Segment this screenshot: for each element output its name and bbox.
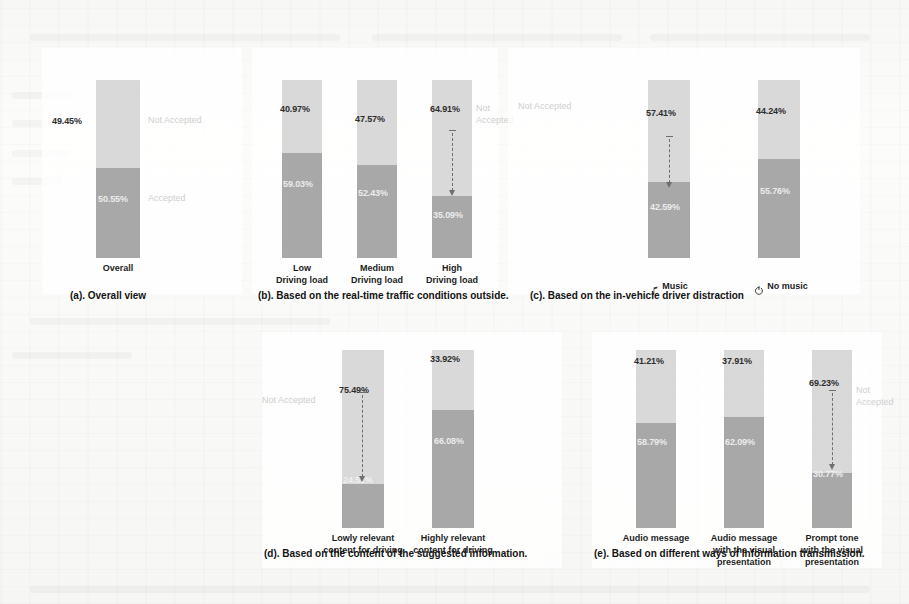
segment-accepted[interactable]	[342, 484, 384, 528]
value-label-accepted: 55.76%	[760, 186, 790, 196]
panel-d-content-relevance: Not Accepted 75.49% 24.51% Lowly relevan…	[262, 332, 562, 568]
value-label-not-accepted: 47.57%	[355, 114, 385, 124]
panel-c-plot: Not Accepted 57.41% 42.59% Music	[508, 48, 860, 294]
value-label-not-accepted: 57.41%	[646, 108, 676, 118]
segment-accepted[interactable]	[758, 159, 800, 258]
value-label-accepted: 52.43%	[358, 188, 388, 198]
value-label-accepted: 66.08%	[434, 436, 464, 446]
no-music-icon	[754, 274, 764, 299]
panel-e-plot: 41.21% 58.79% Audio message 37.91% 62.09…	[592, 332, 882, 568]
panel-e-caption: (e). Based on different ways of informat…	[594, 548, 865, 559]
down-arrow-annotation	[358, 392, 367, 482]
value-label-not-accepted: 64.91%	[430, 104, 460, 114]
panel-a-plot: 49.45% 50.55% Not Accepted Accepted Over…	[42, 48, 242, 294]
panel-b-driving-load: 40.97% 59.03% Low Driving load 47.57% 52…	[252, 48, 498, 294]
panel-c-caption: (c). Based on the in-vehicle driver dist…	[530, 290, 744, 301]
panel-d-caption: (d). Based on the content of the suggest…	[264, 548, 527, 559]
value-label-not-accepted: 69.23%	[809, 378, 839, 388]
down-arrow-annotation	[828, 390, 837, 470]
legend-not-accepted: Not Accepted	[518, 100, 572, 112]
value-label-accepted: 30.77%	[813, 469, 843, 479]
down-arrow-annotation	[448, 130, 457, 196]
segment-accepted[interactable]	[357, 165, 397, 258]
panel-e-transmission-mode: 41.21% 58.79% Audio message 37.91% 62.09…	[592, 332, 882, 568]
panel-a-overall-view: 49.45% 50.55% Not Accepted Accepted Over…	[42, 48, 242, 294]
segment-accepted[interactable]	[96, 168, 140, 258]
value-label-not-accepted: 44.24%	[756, 106, 786, 116]
segment-not-accepted[interactable]	[758, 80, 800, 159]
value-label-accepted: 35.09%	[433, 210, 463, 220]
panel-b-caption: (b). Based on the real-time traffic cond…	[258, 290, 509, 301]
panel-b-plot: 40.97% 59.03% Low Driving load 47.57% 52…	[252, 48, 498, 294]
panel-a-caption: (a). Overall view	[70, 290, 146, 301]
value-label-not-accepted: 49.45%	[52, 116, 82, 126]
x-tick-label-low: Low Driving load	[266, 262, 338, 286]
x-tick-label-high: High Driving load	[416, 262, 488, 286]
bar-medium-driving-load[interactable]	[357, 80, 397, 258]
segment-accepted[interactable]	[812, 473, 852, 528]
segment-not-accepted[interactable]	[96, 80, 140, 168]
x-tick-label-no-music-text: No music	[767, 281, 808, 291]
value-label-accepted: 59.03%	[283, 179, 313, 189]
legend-not-accepted: Not Accepted	[148, 114, 202, 126]
value-label-accepted: 62.09%	[725, 437, 755, 447]
legend-accepted: Accepted	[148, 192, 186, 204]
bar-overall[interactable]	[96, 80, 140, 258]
value-label-accepted: 50.55%	[98, 194, 128, 204]
value-label-accepted: 42.59%	[650, 202, 680, 212]
figure-stacked-bar-acceptance: 49.45% 50.55% Not Accepted Accepted Over…	[0, 0, 909, 604]
segment-not-accepted[interactable]	[282, 80, 322, 153]
x-tick-label-overall: Overall	[86, 262, 150, 274]
segment-accepted[interactable]	[648, 182, 690, 258]
segment-accepted[interactable]	[432, 196, 472, 258]
segment-accepted[interactable]	[432, 410, 474, 528]
x-tick-label-medium: Medium Driving load	[341, 262, 413, 286]
x-tick-label-audio-message: Audio message	[614, 532, 698, 544]
value-label-not-accepted: 40.97%	[280, 104, 310, 114]
segment-accepted[interactable]	[282, 153, 322, 258]
x-tick-label-no-music: No music	[736, 262, 826, 299]
panel-c-driver-distraction: Not Accepted 57.41% 42.59% Music	[508, 48, 860, 294]
value-label-not-accepted: 41.21%	[634, 356, 664, 366]
legend-not-accepted: Not Accepted	[262, 394, 316, 406]
down-arrow-annotation	[665, 136, 674, 188]
legend-not-accepted: Not Accepted	[856, 384, 894, 408]
value-label-accepted: 58.79%	[637, 437, 667, 447]
panel-d-plot: Not Accepted 75.49% 24.51% Lowly relevan…	[262, 332, 562, 568]
value-label-not-accepted: 33.92%	[430, 354, 460, 364]
segment-accepted[interactable]	[724, 417, 764, 528]
value-label-not-accepted: 37.91%	[722, 356, 752, 366]
